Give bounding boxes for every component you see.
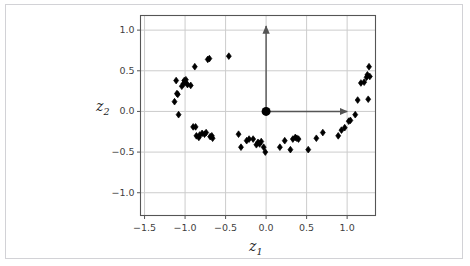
data-point bbox=[239, 144, 244, 151]
data-point bbox=[336, 132, 341, 139]
x-tick-label: −1.0 bbox=[165, 222, 205, 233]
y-tick-label: 0.5 bbox=[99, 65, 135, 76]
data-point bbox=[320, 129, 325, 136]
data-point bbox=[282, 137, 287, 144]
x-tick-label: −0.5 bbox=[206, 222, 246, 233]
data-point bbox=[251, 136, 256, 143]
y-tick-label: −0.5 bbox=[99, 146, 135, 157]
origin-dot bbox=[262, 107, 271, 116]
x-tick-label: −1.5 bbox=[125, 222, 165, 233]
data-point bbox=[176, 111, 181, 118]
x-tick-label: 0.0 bbox=[246, 222, 286, 233]
data-point bbox=[226, 53, 231, 60]
x-tick-label: 1.0 bbox=[327, 222, 367, 233]
data-point bbox=[174, 77, 179, 84]
tick-marks bbox=[137, 30, 347, 219]
data-point bbox=[172, 98, 177, 105]
data-point bbox=[353, 111, 358, 118]
x-axis-label: z1 bbox=[249, 238, 262, 257]
data-point bbox=[355, 97, 360, 104]
axes-frame bbox=[141, 16, 376, 216]
data-point bbox=[366, 96, 371, 103]
data-point bbox=[277, 144, 282, 151]
data-point bbox=[367, 63, 372, 70]
data-point bbox=[236, 131, 241, 138]
grid-lines bbox=[141, 16, 376, 216]
data-point bbox=[192, 63, 197, 70]
y-tick-label: −1.0 bbox=[99, 187, 135, 198]
data-points bbox=[172, 53, 372, 156]
origin-dot bbox=[262, 107, 271, 116]
data-point bbox=[314, 135, 319, 142]
y-tick-label: 0.0 bbox=[99, 105, 135, 116]
y-tick-label: 1.0 bbox=[99, 24, 135, 35]
x-tick-label: 0.5 bbox=[287, 222, 327, 233]
